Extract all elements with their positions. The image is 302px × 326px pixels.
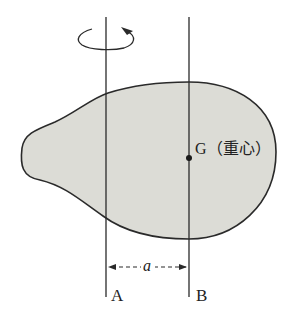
axis-b-label: B [196,286,207,305]
rigid-body-shape [21,82,276,239]
distance-label: a [143,257,151,274]
center-of-mass-dot [186,155,192,161]
axis-a-label: A [111,286,124,305]
diagram-canvas: G（重心） a A B [0,0,302,326]
center-of-mass-label: G（重心） [195,140,271,157]
